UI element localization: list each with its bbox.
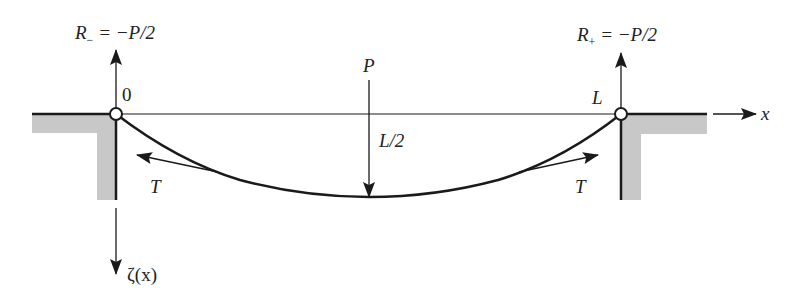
right-tension-arrow xyxy=(519,155,598,172)
left-tension-arrow xyxy=(137,155,218,172)
string-deflection-diagram: x R− = −P/2 R+ = −P/2 0 L P L/2 T T ζ(x) xyxy=(0,0,805,299)
load-position-label: L/2 xyxy=(378,130,405,151)
origin-label: 0 xyxy=(122,84,132,105)
left-tension-label: T xyxy=(150,176,162,197)
left-reaction-label: R− = −P/2 xyxy=(74,22,155,47)
left-support xyxy=(32,114,116,200)
right-pin xyxy=(615,108,627,120)
load-label: P xyxy=(362,55,375,76)
left-pin xyxy=(110,108,122,120)
right-support xyxy=(621,114,707,200)
right-tension-label: T xyxy=(575,176,587,197)
x-axis-label: x xyxy=(760,103,770,124)
deflection-axis-label: ζ(x) xyxy=(127,264,157,286)
right-end-label: L xyxy=(591,87,603,108)
right-reaction-label: R+ = −P/2 xyxy=(576,24,657,49)
